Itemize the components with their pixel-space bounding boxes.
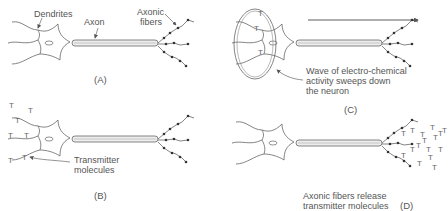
svg-text:T: T: [22, 153, 27, 162]
label-wave-3: the neuron: [306, 86, 349, 96]
svg-text:T: T: [401, 151, 406, 160]
label-fibers: fibers: [140, 17, 162, 27]
svg-text:T: T: [438, 145, 443, 154]
label-wave-2: activity sweeps down: [306, 76, 391, 86]
panel-b-transmitters: TTT TTTT: [8, 101, 33, 165]
label-wave-1: Wave of electro-chemical: [306, 66, 407, 76]
svg-text:T: T: [433, 133, 438, 142]
svg-text:T: T: [401, 129, 406, 138]
label-axon: Axon: [84, 17, 105, 27]
svg-text:T: T: [258, 9, 263, 18]
panel-c-transmitters: TTT: [254, 9, 263, 57]
svg-text:T: T: [28, 106, 33, 115]
label-molecules: molecules: [74, 165, 115, 175]
label-transmitter: Transmitter: [74, 155, 119, 165]
svg-text:T: T: [432, 163, 437, 172]
svg-text:T: T: [416, 141, 421, 150]
svg-text:T: T: [417, 159, 422, 168]
panel-label-c: (C): [344, 104, 357, 115]
panel-label-a: (A): [94, 74, 107, 85]
label-release-2: transmitter molecules: [303, 201, 389, 211]
svg-text:T: T: [8, 156, 13, 165]
svg-text:T: T: [254, 24, 259, 33]
panel-label-d: (D): [400, 200, 413, 211]
label-release-1: Axonic fibers release: [303, 191, 387, 201]
neuron-diagram: TTT TTTT TTT TTTT TTT TTTT TTTTT: [0, 0, 448, 211]
svg-text:T: T: [410, 145, 415, 154]
svg-text:T: T: [8, 131, 13, 140]
svg-text:T: T: [428, 153, 433, 162]
panel-label-b: (B): [94, 190, 107, 201]
svg-text:T: T: [422, 136, 427, 145]
svg-text:T: T: [15, 116, 20, 125]
panel-d-neuron: [232, 119, 418, 168]
panel-d-transmitters: TTTT TTT TTTT TTTTT: [401, 123, 447, 172]
svg-text:T: T: [9, 101, 14, 110]
svg-text:T: T: [430, 123, 435, 132]
label-dendrites: Dendrites: [34, 9, 73, 19]
svg-text:T: T: [442, 126, 447, 135]
svg-text:T: T: [410, 126, 415, 135]
svg-text:T: T: [258, 48, 263, 57]
label-axonic: Axonic: [137, 7, 164, 17]
panel-c-neuron: [232, 19, 418, 68]
svg-text:T: T: [24, 131, 29, 140]
